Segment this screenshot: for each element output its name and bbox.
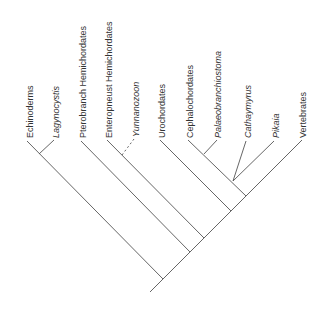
label-pterobranch-hemichordates: Pterobranch Hemichordates [78,25,88,138]
label-urochordates: Urochordates [157,83,167,138]
branch-palaeobranchiostoma [204,140,217,154]
label-pikaia: Pikaia [271,113,281,138]
label-palaeobranchiostoma: Palaeobranchiostoma [213,51,223,138]
branch-pterobranch [81,141,190,252]
branch-lagynocystis [39,140,54,154]
label-enteropneust-hemichordates: Enteropneust Hemichordates [104,21,114,138]
label-vertebrates: Vertebrates [298,91,308,138]
branch-urochordates [160,140,231,211]
branch-echinoderms [27,141,163,279]
cladogram: Echinoderms Lagynocystis Pterobranch Hem… [0,0,321,312]
main-stem [150,140,302,292]
label-yunnanozoon: Yunnanozoon [131,82,141,137]
label-echinoderms: Echinoderms [25,85,35,138]
label-lagynocystis: Lagynocystis [51,85,61,138]
label-cephalochordates: Cephalochordates [185,64,195,138]
branch-yunnanozoon [122,139,134,155]
branch-enteropneust [107,140,204,238]
label-cathaymyrus: Cathaymyrus [243,84,253,138]
